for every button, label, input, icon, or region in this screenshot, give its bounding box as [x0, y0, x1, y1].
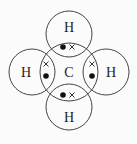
hydrogen-label-top: H — [64, 20, 74, 35]
hydrogen-label-bottom: H — [64, 110, 74, 125]
hydrogen-label-left: H — [21, 65, 31, 80]
hydrogen-shell-left — [9, 49, 55, 95]
electron-cross-icon — [70, 45, 75, 50]
methane-dot-cross-diagram: C H H H H — [0, 0, 137, 144]
electron-dot-icon — [60, 44, 66, 50]
carbon-label: C — [64, 65, 73, 80]
hydrogen-label-right: H — [106, 65, 116, 80]
electron-cross-icon — [44, 62, 49, 67]
electron-dot-icon — [43, 73, 49, 79]
electron-dot-icon — [89, 73, 95, 79]
electron-cross-icon — [90, 62, 95, 67]
electron-dot-icon — [60, 92, 66, 98]
electron-cross-icon — [70, 93, 75, 98]
